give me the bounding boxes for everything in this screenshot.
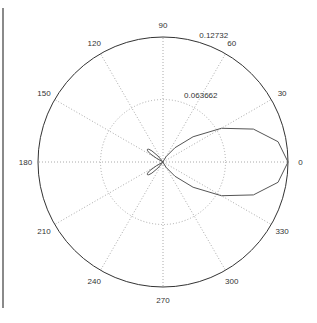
- theta-tick-label: 0: [298, 158, 303, 167]
- theta-tick-label: 180: [19, 158, 33, 167]
- theta-tick-label: 300: [225, 277, 239, 286]
- theta-tick-label: 330: [275, 227, 289, 236]
- theta-tick-label: 30: [278, 89, 287, 98]
- theta-tick-label: 60: [227, 39, 236, 48]
- theta-grid-spoke: [163, 162, 271, 225]
- theta-grid-spoke: [163, 100, 271, 163]
- r-tick-label: 0.063662: [184, 91, 218, 100]
- label-layer: 0.0636620.127320306090120150180210240270…: [19, 21, 303, 305]
- theta-tick-label: 90: [159, 21, 168, 30]
- theta-grid-spoke: [55, 162, 163, 225]
- r-tick-label: 0.12732: [199, 31, 228, 40]
- theta-tick-label: 270: [156, 296, 170, 305]
- theta-grid-spoke: [163, 162, 226, 270]
- theta-grid-spoke: [101, 162, 164, 270]
- theta-tick-label: 240: [88, 277, 102, 286]
- theta-tick-label: 150: [37, 89, 51, 98]
- theta-tick-label: 120: [88, 39, 102, 48]
- theta-tick-label: 210: [37, 227, 51, 236]
- polar-plot: 0.0636620.127320306090120150180210240270…: [0, 0, 317, 323]
- theta-grid-spoke: [163, 54, 226, 162]
